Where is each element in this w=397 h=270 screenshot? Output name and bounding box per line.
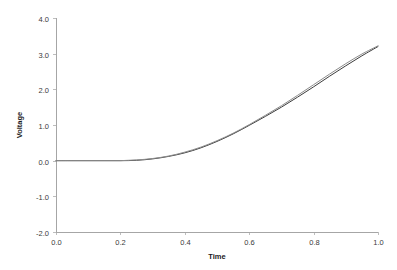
y-tick-label: 3.0 <box>39 51 49 60</box>
x-tick-label: 0.0 <box>51 238 61 247</box>
y-tick-labels: 4.03.02.01.00.0-1.0-2.0 <box>36 15 49 238</box>
series-line-series-2 <box>56 46 378 161</box>
x-tick-label: 0.6 <box>244 238 254 247</box>
y-tick-label: -2.0 <box>36 229 49 238</box>
series-line-series-1 <box>56 47 378 161</box>
y-tick-label: 0.0 <box>39 158 49 167</box>
y-tick-label: 1.0 <box>39 122 49 131</box>
x-axis-title: Time <box>208 252 225 261</box>
x-tick-label: 0.8 <box>309 238 319 247</box>
x-tick-label: 1.0 <box>373 238 383 247</box>
y-tick-label: -1.0 <box>36 193 49 202</box>
y-tick-marks <box>53 19 56 233</box>
y-axis-title: Voltage <box>15 112 24 139</box>
y-tick-label: 2.0 <box>39 86 49 95</box>
x-tick-label: 0.2 <box>115 238 125 247</box>
x-tick-labels: 0.00.20.40.60.81.0 <box>51 238 383 247</box>
chart-page: 4.03.02.01.00.0-1.0-2.0 0.00.20.40.60.81… <box>0 0 397 270</box>
data-series-group <box>56 46 378 161</box>
voltage-time-line-chart: 4.03.02.01.00.0-1.0-2.0 0.00.20.40.60.81… <box>0 0 397 270</box>
x-tick-label: 0.4 <box>180 238 190 247</box>
y-tick-label: 4.0 <box>39 15 49 24</box>
